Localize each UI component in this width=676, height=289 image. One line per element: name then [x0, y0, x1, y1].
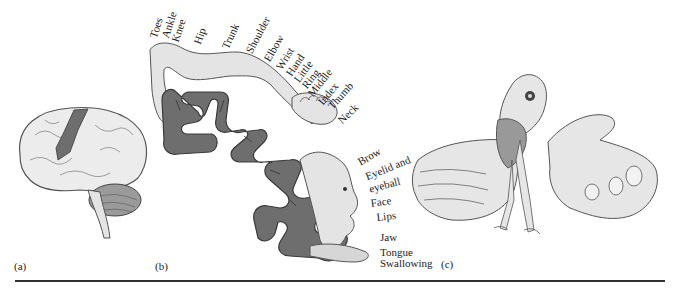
label-swallowing: Swallowing — [380, 258, 433, 269]
brain-icon — [20, 108, 147, 238]
label-lips: Lips — [376, 210, 397, 223]
homunculus-figure — [412, 75, 657, 234]
panel-tag-a: (a) — [14, 260, 26, 272]
panel-tag-b: (b) — [155, 260, 168, 272]
label-jaw: Jaw — [380, 232, 397, 243]
bottom-rule — [15, 280, 665, 282]
brain-illustration — [0, 0, 676, 289]
panel-tag-c: (c) — [441, 258, 453, 270]
